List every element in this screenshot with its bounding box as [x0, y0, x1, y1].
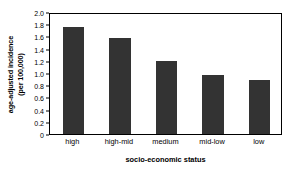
x-axis-tick-label: low: [253, 137, 264, 147]
y-axis-tick-label: 1.4: [34, 46, 44, 53]
x-axis-tick-label: mid-low: [199, 137, 224, 147]
x-axis-tick-labels: highhigh-midmediummid-lowlow: [49, 137, 282, 149]
bar-slot: [190, 14, 237, 134]
y-axis-tick-label: 0.4: [34, 107, 44, 114]
x-axis-tick-label: high: [65, 137, 79, 147]
y-axis-tick-label: 2.0: [34, 10, 44, 17]
bar-chart-figure: age-adjusted incidence (per 100,000) 00.…: [0, 0, 290, 182]
y-axis-tick-label: 0: [40, 132, 44, 139]
bar[interactable]: [63, 27, 84, 134]
y-axis-title-line-2: (per 100,000): [16, 35, 26, 112]
y-axis-tick-label: 0.2: [34, 119, 44, 126]
bar[interactable]: [249, 80, 270, 134]
y-axis-tick-label: 0.8: [34, 83, 44, 90]
y-axis-tick-label: 1.0: [34, 71, 44, 78]
bar[interactable]: [202, 75, 223, 134]
x-axis-tick-label: medium: [152, 137, 178, 147]
plot-area: [50, 14, 281, 134]
y-axis-title: age-adjusted incidence (per 100,000): [4, 14, 28, 134]
x-axis-tick-label: high-mid: [105, 137, 133, 147]
bar-slot: [143, 14, 190, 134]
bar[interactable]: [156, 61, 177, 134]
bar-slot: [50, 14, 97, 134]
y-axis-tick-labels: 00.20.40.60.81.01.21.41.61.82.0: [26, 13, 46, 135]
bar[interactable]: [109, 38, 130, 134]
plot-frame: [49, 13, 282, 135]
y-axis-title-line-1: age-adjusted incidence: [7, 35, 17, 112]
bar-slot: [97, 14, 144, 134]
x-axis-title: socio-economic status: [49, 155, 282, 164]
bar-slot: [236, 14, 283, 134]
y-axis-tick-label: 1.6: [34, 34, 44, 41]
y-axis-tick-label: 0.6: [34, 95, 44, 102]
y-axis-tick-label: 1.2: [34, 58, 44, 65]
y-axis-tick-label: 1.8: [34, 22, 44, 29]
